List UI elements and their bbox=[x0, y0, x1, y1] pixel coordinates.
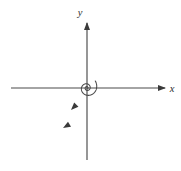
y-axis-label: y bbox=[77, 7, 83, 18]
flow-arrow-upper-icon bbox=[71, 103, 78, 110]
x-axis-label: x bbox=[169, 83, 175, 94]
x-axis-arrowhead bbox=[158, 85, 166, 91]
flow-arrow-lower-icon bbox=[63, 122, 71, 128]
y-axis-group bbox=[84, 22, 90, 160]
spiral-figure: x y bbox=[0, 0, 181, 171]
figure-canvas: x y bbox=[0, 0, 181, 171]
y-axis-arrowhead bbox=[84, 22, 90, 30]
flow-arrowheads-group bbox=[63, 103, 78, 128]
